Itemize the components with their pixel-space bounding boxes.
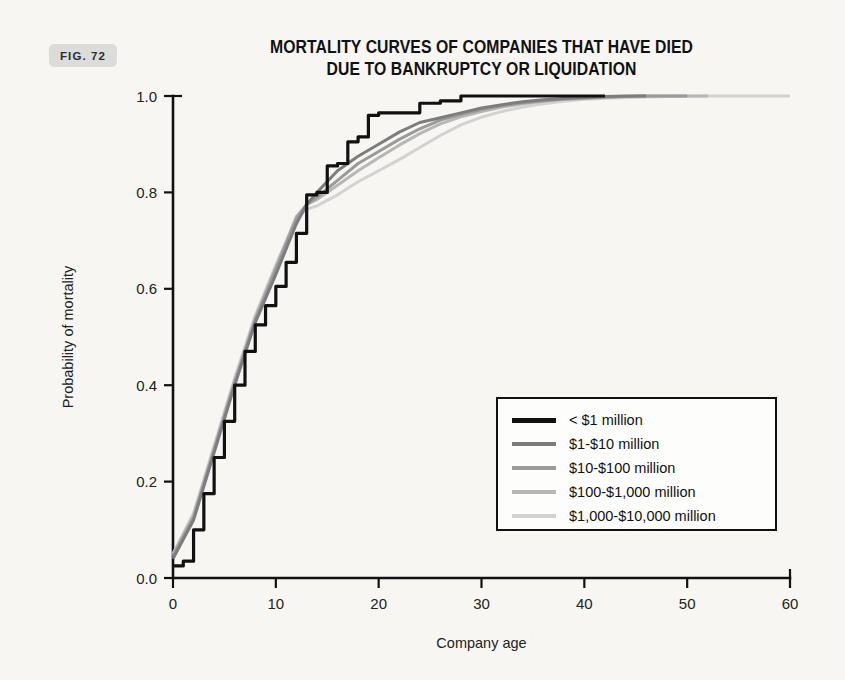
legend-color-swatch [512, 442, 556, 446]
legend-item-label: $1,000-$10,000 million [569, 508, 716, 524]
x-tick-label: 40 [576, 595, 593, 612]
figure-page: FIG. 72 MORTALITY CURVES OF COMPANIES TH… [0, 0, 845, 680]
x-tick-label: 10 [267, 595, 284, 612]
legend-item[interactable]: $1-$10 million [512, 433, 659, 455]
legend-item[interactable]: < $1 million [512, 409, 643, 431]
y-tick-label: 0.4 [136, 377, 157, 394]
legend-item[interactable]: $10-$100 million [512, 457, 675, 479]
legend-color-swatch [512, 514, 556, 518]
legend-item[interactable]: $100-$1,000 million [512, 481, 696, 503]
x-tick-label: 20 [370, 595, 387, 612]
legend-item-label: < $1 million [569, 412, 643, 428]
y-tick-label: 0.6 [136, 280, 157, 297]
legend-color-swatch [512, 490, 556, 494]
x-tick-label: 30 [473, 595, 490, 612]
legend-color-swatch [512, 418, 556, 423]
y-tick-label: 0.2 [136, 473, 157, 490]
chart-legend: < $1 million$1-$10 million$10-$100 milli… [496, 397, 777, 531]
y-tick-label: 0.0 [136, 570, 157, 587]
legend-item-label: $10-$100 million [569, 460, 675, 476]
legend-color-swatch [512, 466, 556, 470]
x-tick-label: 50 [679, 595, 696, 612]
mortality-curves-plot: 0.00.20.40.60.81.00102030405060Company a… [0, 0, 845, 680]
x-tick-label: 0 [169, 595, 177, 612]
y-tick-label: 1.0 [136, 88, 157, 105]
y-tick-label: 0.8 [136, 184, 157, 201]
x-axis-label: Company age [436, 635, 526, 651]
legend-item-label: $100-$1,000 million [569, 484, 696, 500]
legend-item[interactable]: $1,000-$10,000 million [512, 505, 716, 527]
legend-item-label: $1-$10 million [569, 436, 659, 452]
y-axis-label: Probability of mortality [60, 265, 76, 408]
x-tick-label: 60 [782, 595, 799, 612]
